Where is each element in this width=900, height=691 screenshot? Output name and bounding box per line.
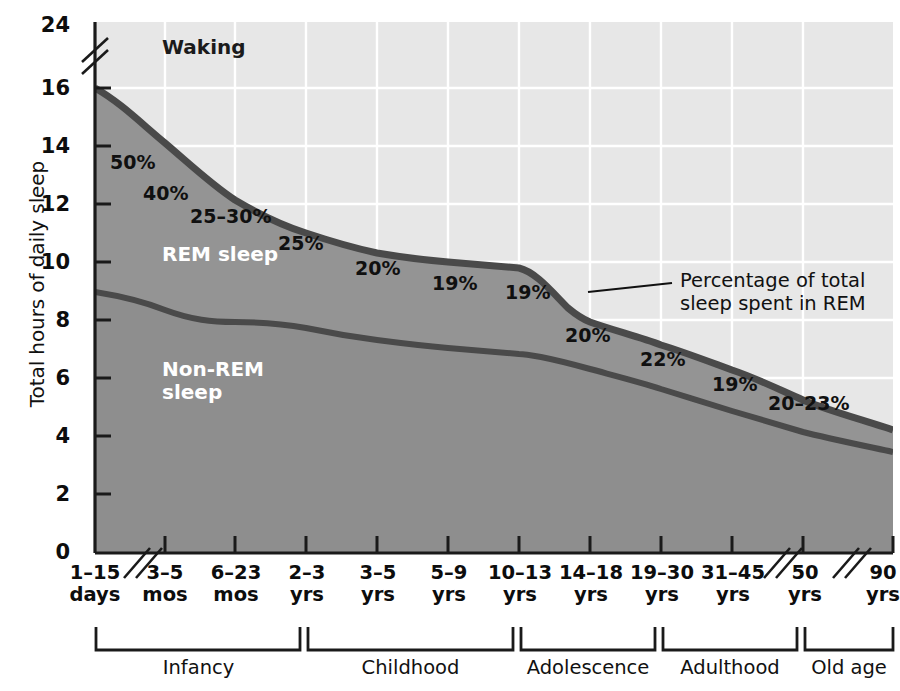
stage-label-childhood: Childhood [308,656,513,679]
rem-percent-label-1: 40% [143,182,188,204]
rem-percent-label-10: 20–23% [768,392,849,414]
waking-region-label: Waking [162,36,246,59]
stage-label-infancy: Infancy [96,656,301,679]
y-tick-label-16: 16 [18,76,70,100]
rem-percent-label-5: 19% [432,272,477,294]
y-tick-label-0: 0 [18,540,70,564]
y-tick-label-2: 2 [18,482,70,506]
non-rem-sleep-region-label: Non-REM sleep [162,358,264,404]
x-tick-label-50-yrs: 50 yrs [762,562,848,606]
stage-label-old-age: Old age [800,656,898,679]
rem-percent-label-7: 20% [565,324,610,346]
rem-percent-label-0: 50% [110,151,155,173]
y-tick-label-14: 14 [18,134,70,158]
rem-sleep-region-label: REM sleep [162,243,278,266]
rem-percent-label-8: 22% [640,348,685,370]
y-tick-label-4: 4 [18,424,70,448]
rem-percentage-callout: Percentage of total sleep spent in REM [680,269,866,315]
rem-percent-label-6: 19% [505,281,550,303]
y-tick-label-24: 24 [18,13,70,37]
y-tick-label-10: 10 [18,250,70,274]
stage-label-adolescence: Adolescence [513,656,663,679]
y-tick-label-8: 8 [18,308,70,332]
rem-percent-label-2: 25–30% [190,205,271,227]
y-tick-label-6: 6 [18,366,70,390]
x-tick-label-90-yrs: 90 yrs [840,562,900,606]
rem-percent-label-4: 20% [355,257,400,279]
rem-percent-label-9: 19% [712,373,757,395]
stage-label-adulthood: Adulthood [661,656,799,679]
stage-brackets [96,627,893,650]
y-tick-label-12: 12 [18,192,70,216]
sleep-across-lifespan-chart: Total hours of daily sleep 24 16 14 12 1… [0,0,900,691]
rem-percent-label-3: 25% [278,232,323,254]
